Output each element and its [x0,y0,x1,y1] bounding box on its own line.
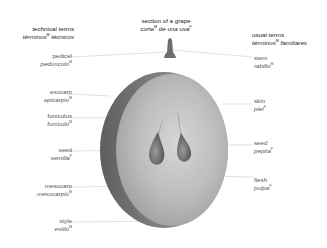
grape-section-diagram: section of a grape corteM de una uvaF te… [0,0,327,248]
label-seed-usual: seed pepitaF [254,139,324,154]
label-funiculus: funiculus funículoM [4,112,72,127]
label-stem: stem rabilloM [254,54,324,69]
header-usual-terms: usual terms términosM familiares [252,31,327,46]
label-style: style estiloM [4,217,72,232]
label-seed-technical: seed semillaF [4,146,72,161]
label-mesocarp: mesocarp mesocarpioM [4,182,72,197]
label-exocarp: exocarp epicarpioM [4,88,72,103]
grape-flesh [116,74,228,226]
diagram-title: section of a grape corteM de una uvaF [118,17,214,32]
header-technical-terms: technical terms términosM técnicos [4,25,74,40]
label-skin: skin pielF [254,97,324,112]
label-pedicel: pedicel pedúnculoM [4,52,72,67]
grape-stem [164,38,176,58]
label-flesh: flesh pulpaF [254,176,324,191]
